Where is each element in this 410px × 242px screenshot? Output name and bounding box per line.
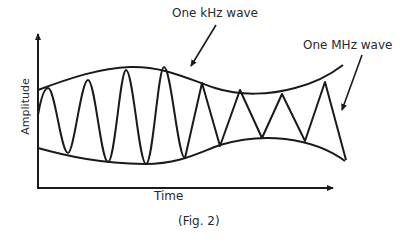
am-wave-diagram [0, 0, 410, 242]
khz-wave-label: One kHz wave [172, 6, 258, 20]
am-modulation-figure: One kHz wave One MHz wave Time Amplitude… [0, 0, 410, 242]
mhz-wave-label: One MHz wave [303, 38, 392, 52]
lower-envelope [38, 138, 345, 164]
figure-caption: (Fig. 2) [178, 214, 220, 228]
khz-pointer [191, 25, 216, 66]
x-axis-label: Time [154, 189, 183, 203]
mhz-pointer [342, 55, 362, 110]
carrier-wave [38, 67, 346, 164]
y-axis-label: Amplitude [19, 77, 32, 137]
